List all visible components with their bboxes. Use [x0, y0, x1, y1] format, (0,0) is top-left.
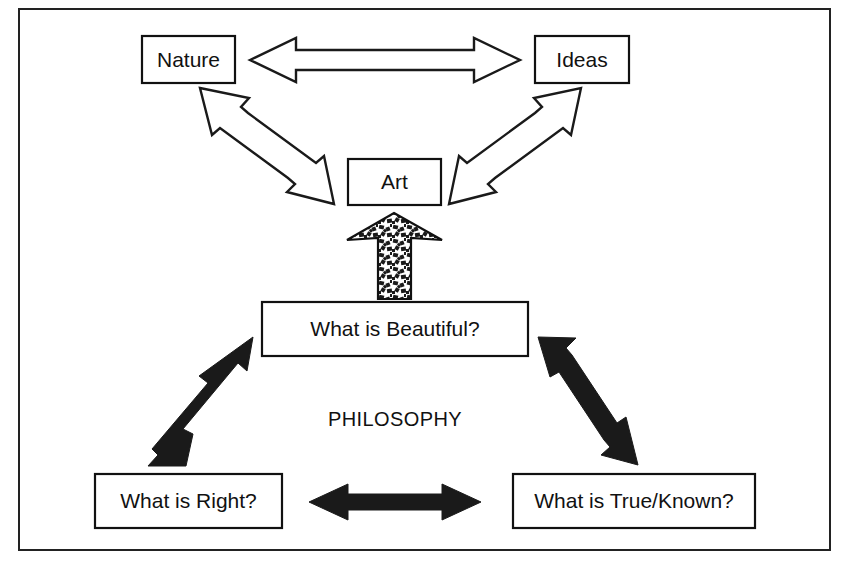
node-what-is-beautiful[interactable]: What is Beautiful?	[262, 302, 528, 356]
node-what-is-right[interactable]: What is Right?	[95, 474, 282, 528]
diagram-canvas: Nature Ideas Art What is Beautiful? What…	[0, 0, 841, 576]
node-what-is-true-known-label: What is True/Known?	[534, 489, 734, 512]
philosophy-heading: PHILOSOPHY	[328, 408, 462, 430]
node-ideas-label: Ideas	[556, 48, 607, 71]
connector-nature-ideas-arrow	[250, 38, 520, 82]
connector-right-true-arrow	[309, 484, 481, 520]
node-art[interactable]: Art	[348, 159, 441, 205]
node-nature[interactable]: Nature	[142, 36, 235, 83]
connector-philosophy-to-art-textured-arrow	[347, 213, 442, 299]
philosophy-art-relationship-diagram: Nature Ideas Art What is Beautiful? What…	[0, 0, 841, 576]
figure-frame	[19, 9, 830, 550]
connector-beautiful-true-arrow	[538, 337, 638, 465]
node-art-label: Art	[381, 170, 408, 193]
node-what-is-true-known[interactable]: What is True/Known?	[513, 474, 755, 528]
node-what-is-beautiful-label: What is Beautiful?	[310, 317, 479, 340]
node-nature-label: Nature	[157, 48, 220, 71]
node-what-is-right-label: What is Right?	[120, 489, 257, 512]
connector-beautiful-right-arrow	[148, 337, 253, 466]
connector-nature-art-arrow	[200, 88, 334, 204]
node-ideas[interactable]: Ideas	[535, 36, 629, 83]
connector-ideas-art-arrow	[449, 88, 581, 204]
